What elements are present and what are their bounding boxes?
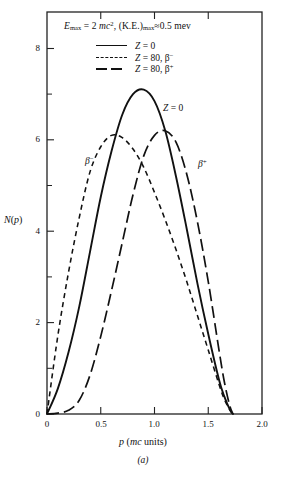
annotation-bp-sup: + xyxy=(203,158,207,166)
title-approx: ≈0.5 mev xyxy=(154,21,191,31)
curve-z0 xyxy=(47,89,233,414)
annotation-z0: Z = 0 xyxy=(163,104,183,114)
annotation-z0-rest: = 0 xyxy=(168,103,183,113)
annotation-beta-minus: β− xyxy=(85,156,94,167)
x-tick-label-1.5: 1.5 xyxy=(195,420,221,429)
x-tick-label-2.0: 2.0 xyxy=(249,420,275,429)
x-axis-label-units: units) xyxy=(142,436,167,447)
annotation-bm-sup: − xyxy=(90,155,94,163)
y-axis-major-ticks xyxy=(47,49,54,415)
legend: Z = 0 Z = 80, β− Z = 80, β+ xyxy=(96,40,216,75)
y-tick-label-0: 0 xyxy=(24,410,40,419)
legend-item-beta-plus: Z = 80, β+ xyxy=(96,63,216,75)
title-ke-sub: max xyxy=(143,24,154,31)
title-comma: , (K.E.) xyxy=(114,21,143,31)
x-axis-label: p (mc units) xyxy=(119,437,167,447)
curve-beta-plus xyxy=(47,130,233,414)
y-tick-label-8: 8 xyxy=(24,44,40,53)
legend-bm-sup: − xyxy=(170,52,174,60)
y-tick-label-6: 6 xyxy=(24,135,40,144)
x-tick-label-0: 0 xyxy=(34,420,60,429)
legend-label-beta-plus: Z = 80, β+ xyxy=(135,63,173,74)
x-axis-top-ticks xyxy=(101,12,209,19)
title-mc: mc xyxy=(99,21,110,31)
legend-z0-rest: = 0 xyxy=(140,41,155,51)
plot-title: Emax = 2 mc2, (K.E.)max≈0.5 mev xyxy=(64,21,191,32)
y-axis-label: N(p) xyxy=(4,215,22,225)
legend-line-solid-icon xyxy=(96,45,127,46)
title-E-sub: max xyxy=(70,24,81,31)
legend-label-beta-minus: Z = 80, β− xyxy=(135,52,173,63)
legend-bp-rest: = 80, β xyxy=(140,64,169,74)
y-tick-label-2: 2 xyxy=(24,318,40,327)
figure-beta-spectrum: Emax = 2 mc2, (K.E.)max≈0.5 mev Z = 0 Z … xyxy=(0,0,286,478)
y-tick-label-4: 4 xyxy=(24,227,40,236)
y-axis-label-p: p xyxy=(14,214,19,225)
curve-beta-minus xyxy=(47,135,233,414)
legend-bp-sup: + xyxy=(170,63,174,71)
figure-caption: (a) xyxy=(137,456,148,466)
title-eq: = 2 xyxy=(81,21,99,31)
annotation-beta-plus: β+ xyxy=(198,159,207,170)
legend-line-long-dash-icon xyxy=(96,68,127,70)
y-axis-label-N: N xyxy=(4,214,11,225)
legend-label-z0: Z = 0 xyxy=(135,40,155,51)
x-axis-label-mc: mc xyxy=(130,436,142,447)
x-tick-label-0.5: 0.5 xyxy=(88,420,114,429)
legend-bm-rest: = 80, β xyxy=(140,53,169,63)
legend-item-z0: Z = 0 xyxy=(96,40,216,52)
x-tick-label-1.0: 1.0 xyxy=(141,420,167,429)
legend-line-short-dash-icon xyxy=(96,57,127,58)
legend-item-beta-minus: Z = 80, β− xyxy=(96,52,216,64)
